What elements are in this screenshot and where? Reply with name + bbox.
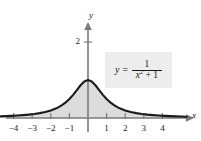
function-graph-figure: y = 1 x2 + 1 x y −4−3−2−11234 2: [0, 0, 201, 141]
x-tick-label: −1: [59, 123, 79, 133]
y-axis-arrow-icon: [84, 22, 92, 30]
x-tick-label: −3: [22, 123, 42, 133]
equation-denominator-constant: 1: [153, 70, 158, 80]
x-tick-label: 2: [115, 123, 135, 133]
equation-lhs: y: [115, 65, 120, 75]
equation-label-box: y = 1 x2 + 1: [105, 52, 172, 88]
equation-fraction: 1 x2 + 1: [132, 60, 162, 81]
y-axis-label: y: [89, 10, 93, 20]
x-tick-label: −4: [4, 123, 24, 133]
y-tick-label: 2: [64, 36, 80, 46]
equation-expression: y = 1 x2 + 1: [115, 60, 162, 81]
x-tick-label: −2: [41, 123, 61, 133]
x-axis-label: x: [192, 110, 196, 120]
equation-denominator-operator: +: [146, 70, 151, 80]
x-tick-label: 3: [134, 123, 154, 133]
equation-denominator: x2 + 1: [134, 71, 160, 81]
equation-equals-sign: =: [122, 65, 129, 75]
equation-denominator-exponent: 2: [140, 68, 143, 75]
x-tick-label: 4: [152, 123, 172, 133]
x-tick-label: 1: [97, 123, 117, 133]
